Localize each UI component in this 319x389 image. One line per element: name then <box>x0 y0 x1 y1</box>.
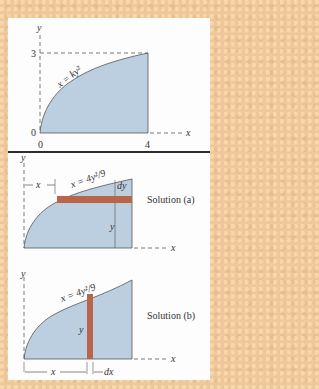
y-dim-label-b: y <box>78 324 84 335</box>
solution-b-caption: Solution (b) <box>147 310 195 322</box>
horizontal-strip <box>57 196 132 203</box>
solution-a-figure: y x x dy y x = 4y²/9 Solution (a) <box>20 152 195 253</box>
x-axis-label-b: x <box>170 353 176 364</box>
problem-figure: y x 3 0 0 4 x = ky² <box>31 22 191 150</box>
vertical-strip <box>87 294 93 359</box>
y-axis-label: y <box>36 22 42 33</box>
dx-label: dx <box>104 366 114 377</box>
y-dim-label-a: y <box>109 221 115 232</box>
x-tick-4: 4 <box>145 139 150 150</box>
x-axis-label: x <box>185 127 191 138</box>
y-tick-3: 3 <box>31 48 36 59</box>
y-axis-label-a: y <box>20 152 26 163</box>
x-tick-0: 0 <box>38 139 43 150</box>
solution-a-caption: Solution (a) <box>147 194 195 206</box>
x-dim-label-b: x <box>50 366 56 377</box>
solution-b-figure: y x y x dx x = 4y²/9 Solution (b) <box>20 268 195 377</box>
diagram-canvas: y x 3 0 0 4 x = ky² y x x dy y x = 4y²/9… <box>0 0 218 389</box>
x-dim-label-a: x <box>35 179 41 190</box>
y-axis-label-b: y <box>20 268 26 279</box>
dy-label: dy <box>117 180 127 191</box>
y-tick-0: 0 <box>31 127 36 138</box>
shaded-region <box>40 53 148 133</box>
x-axis-label-a: x <box>170 242 176 253</box>
